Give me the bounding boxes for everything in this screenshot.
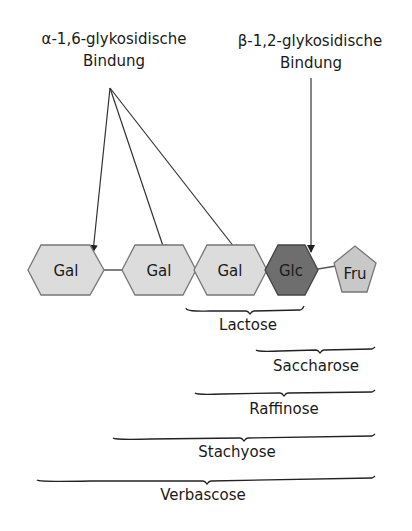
unit-gal-1: Gal [28,245,104,295]
alpha-bond-label-line2: Bindung [83,52,145,70]
svg-text:Glc: Glc [279,262,303,280]
beta-bond-label-line1: β-1,2-glykosidische [238,32,383,50]
brace-stachyose [113,434,375,441]
svg-text:Gal: Gal [218,262,243,280]
brace-saccharose [256,347,375,353]
sugar-label-saccharose: Saccharose [273,357,359,375]
unit-gal-3: Gal [194,245,267,295]
arrow-icon [93,88,110,252]
svg-text:Gal: Gal [54,262,79,280]
beta-bond-label-line2: Bindung [280,54,342,72]
sugar-label-raffinose: Raffinose [249,400,319,418]
alpha-bond-label-line1: α-1,6-glykosidische [42,30,187,48]
arrow-icon [110,88,238,252]
unit-gal-2: Gal [122,245,196,295]
unit-fru: Fru [334,246,376,292]
alpha-bond-arrows [93,88,238,252]
sugar-label-lactose: Lactose [219,316,277,334]
sugar-label-stachyose: Stachyose [198,443,275,461]
brace-verbascose [37,476,375,484]
arrow-icon [110,88,165,252]
brace-lactose [186,306,304,314]
svg-text:Gal: Gal [147,262,172,280]
svg-text:Fru: Fru [343,265,366,283]
sugar-label-verbascose: Verbascose [160,486,246,504]
unit-glc: Glc [265,245,318,295]
brace-raffinose [195,390,375,396]
